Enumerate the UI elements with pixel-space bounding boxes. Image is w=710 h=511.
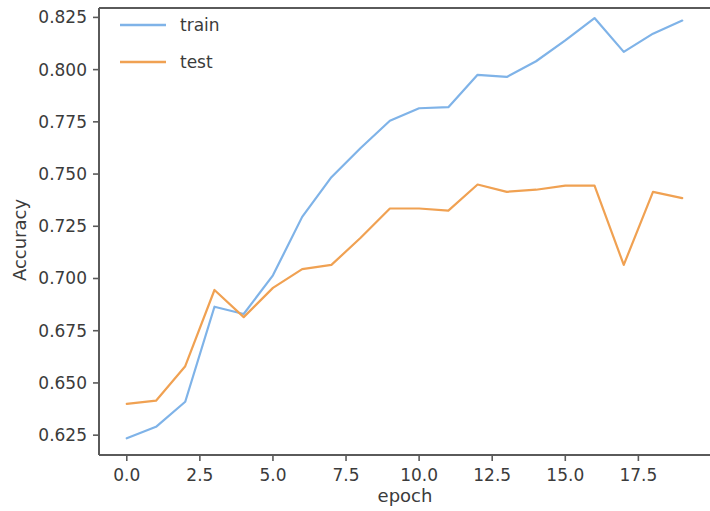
legend-label-test: test [180,52,213,72]
x-tick-label: 10.0 [400,465,438,485]
y-tick-label: 0.650 [38,373,87,393]
series-line-test [127,185,682,404]
series-line-train [127,18,682,438]
x-axis-title: epoch [378,485,433,506]
x-tick-label: 12.5 [473,465,511,485]
x-tick-label: 15.0 [546,465,584,485]
data-series-group [127,18,682,438]
y-tick-label: 0.825 [38,7,87,27]
y-tick-label: 0.625 [38,425,87,445]
y-tick-label: 0.700 [38,268,87,288]
chart-legend: traintest [120,15,220,72]
x-tick-label: 7.5 [333,465,360,485]
y-tick-label: 0.675 [38,321,87,341]
y-tick-label: 0.750 [38,164,87,184]
y-tick-label: 0.725 [38,216,87,236]
y-tick-label: 0.800 [38,60,87,80]
x-tick-label: 2.5 [186,465,213,485]
chart-figure: 0.6250.6500.6750.7000.7250.7500.7750.800… [0,0,710,511]
x-tick-label: 5.0 [259,465,286,485]
y-tick-label: 0.775 [38,112,87,132]
x-tick-label: 17.5 [619,465,657,485]
legend-label-train: train [180,15,220,35]
y-axis-title: Accuracy [9,199,30,282]
x-axis-tick-labels: 0.02.55.07.510.012.515.017.5 [113,465,657,485]
y-axis-tick-labels: 0.6250.6500.6750.7000.7250.7500.7750.800… [38,7,87,445]
accuracy-line-chart: 0.6250.6500.6750.7000.7250.7500.7750.800… [0,0,710,511]
x-tick-label: 0.0 [113,465,140,485]
